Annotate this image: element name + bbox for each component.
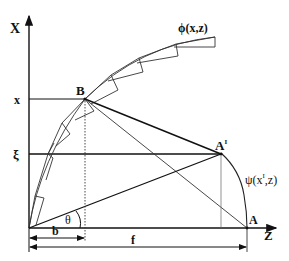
theta-angle-arc — [76, 211, 80, 228]
dimension-b: b — [30, 224, 84, 238]
point-a — [246, 227, 249, 230]
b-dimension-label: b — [52, 224, 59, 238]
point-a-label: A — [249, 213, 258, 227]
ray-b-to-a — [85, 99, 247, 228]
psi-wavefront-curve — [221, 153, 247, 228]
diagram-canvas: X Z x ξ ϕ(x,z) ψ(xI,z) B AI A — [0, 0, 289, 261]
z-axis-label: Z — [264, 228, 273, 243]
point-aprime-label: AI — [215, 138, 227, 153]
ray-origin-to-aprime — [29, 154, 221, 228]
x-axis-label: X — [10, 21, 20, 36]
theta-label: θ — [65, 213, 71, 227]
point-b-label: B — [76, 83, 85, 98]
ray-b-to-aprime — [85, 99, 221, 154]
phi-curve-label: ϕ(x,z) — [178, 21, 208, 35]
f-dimension-label: f — [131, 233, 136, 247]
dimension-f: f — [30, 233, 246, 247]
x-tick-label: x — [14, 93, 20, 107]
axes: X Z — [10, 16, 276, 243]
phi-wavefront-curve — [29, 37, 215, 228]
xi-tick-label: ξ — [13, 147, 19, 162]
psi-curve-label: ψ(xI,z) — [245, 172, 277, 187]
